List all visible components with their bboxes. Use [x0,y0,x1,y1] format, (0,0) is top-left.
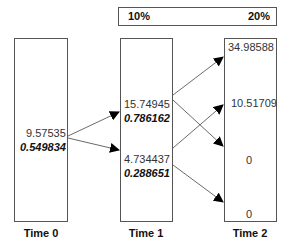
time1-lower-prob: 0.288651 [124,167,170,179]
time1-lower-value: 4.734437 [124,153,170,165]
time2-value-4: 0 [246,208,252,220]
time0-label: Time 0 [11,227,71,239]
time0-prob: 0.549834 [20,141,66,153]
time2-label: Time 2 [220,227,280,239]
time2-value-1: 34.98588 [228,41,274,53]
time1-upper-prob: 0.786162 [124,112,170,124]
time1-label: Time 1 [116,227,176,239]
binomial-tree-diagram: 10% 20% 9.57535 0.549834 15.74945 0.7861… [0,0,292,246]
time0-value: 9.57535 [26,127,66,139]
time2-value-2: 10.51709 [231,97,277,109]
time1-upper-value: 15.74945 [124,98,170,110]
time2-value-3: 0 [246,154,252,166]
